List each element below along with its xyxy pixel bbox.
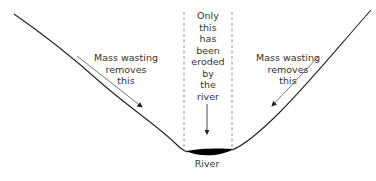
river-channel [186, 148, 234, 155]
center-annotation-label: Only this has been eroded by the river [184, 10, 232, 102]
left-annotation-label: Mass wasting removes this [86, 52, 166, 87]
right-annotation-label: Mass wasting removes this [248, 52, 328, 87]
river-label: River [184, 158, 230, 170]
